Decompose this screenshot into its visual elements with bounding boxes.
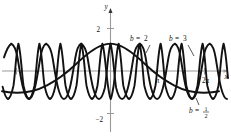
annotation-b-3-eq: =: [175, 34, 179, 43]
annotation-b-2: b = 2: [130, 34, 148, 43]
annotation-b-half-denominator: 2: [204, 112, 207, 119]
leader-b-half: [196, 98, 199, 105]
annotation-b-3-var: b: [169, 34, 173, 43]
x-tick-label-2pi: 2π: [202, 77, 210, 85]
leader-b-2: [146, 45, 150, 53]
x-tick-label-pi: π: [156, 77, 160, 85]
annotation-b-3: b = 3: [169, 34, 187, 43]
annotation-b-half-numerator: 1: [204, 105, 207, 112]
annotation-b-2-val: 2: [144, 34, 148, 43]
plot-canvas: 2 −2 π 2π x y b = 2 b = 3 b = 1 2: [0, 0, 231, 137]
y-axis-label: y: [103, 3, 108, 11]
y-tick-label-neg2: −2: [95, 116, 103, 124]
annotation-b-2-eq: =: [136, 34, 140, 43]
annotation-b-half: b = 1 2: [189, 105, 209, 120]
annotation-b-3-val: 3: [183, 34, 187, 43]
leader-b-3: [188, 45, 194, 56]
figure-container: 2 −2 π 2π x y b = 2 b = 3 b = 1 2: [0, 0, 231, 137]
y-tick-label-2: 2: [96, 26, 100, 34]
y-axis-arrow: [109, 8, 113, 13]
annotation-b-half-eq: =: [195, 106, 199, 115]
annotation-b-half-var: b: [189, 106, 193, 115]
annotation-b-2-var: b: [130, 34, 134, 43]
